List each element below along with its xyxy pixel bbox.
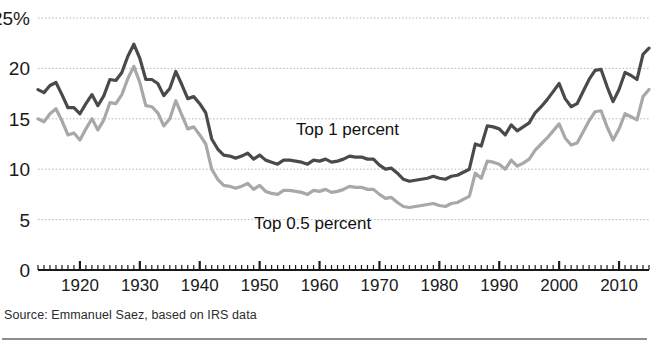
x-axis-label-1990: 1990	[480, 276, 518, 295]
source-note: Source: Emmanuel Saez, based on IRS data	[4, 308, 257, 322]
x-axis-label-2010: 2010	[600, 276, 638, 295]
annotation-top05: Top 0.5 percent	[254, 214, 371, 233]
y-axis-label-0: 0	[19, 260, 30, 281]
income-share-line-chart: 25%2015105019201930194019501960197019801…	[0, 0, 651, 300]
y-axis-label-20: 20	[9, 58, 30, 79]
x-axis-label-1930: 1930	[121, 276, 159, 295]
x-axis-label-1970: 1970	[361, 276, 399, 295]
x-axis-label-2000: 2000	[540, 276, 578, 295]
x-axis-label-1960: 1960	[301, 276, 339, 295]
chart-plot-area: 25%2015105019201930194019501960197019801…	[0, 0, 651, 300]
chart-figure: 25%2015105019201930194019501960197019801…	[0, 0, 651, 348]
y-axis-label-25: 25%	[0, 8, 30, 29]
x-axis-label-1980: 1980	[420, 276, 458, 295]
x-axis-label-1920: 1920	[61, 276, 99, 295]
y-axis-label-10: 10	[9, 159, 30, 180]
annotation-top1: Top 1 percent	[296, 120, 399, 139]
y-axis-label-5: 5	[19, 210, 30, 231]
y-axis-label-15: 15	[9, 109, 30, 130]
bottom-rule	[2, 338, 647, 340]
x-axis-label-1950: 1950	[241, 276, 279, 295]
x-axis-label-1940: 1940	[181, 276, 219, 295]
series-line-top1	[38, 44, 649, 181]
